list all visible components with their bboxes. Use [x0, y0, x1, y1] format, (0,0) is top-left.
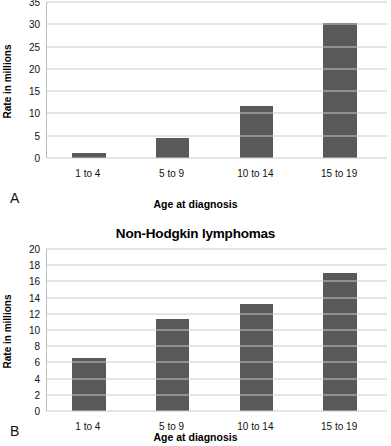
y-tick-label: 15: [29, 86, 40, 97]
category-label: 10 to 14: [237, 168, 273, 179]
gridline: [47, 68, 387, 69]
y-tick-label: 16: [29, 276, 40, 287]
y-tick-label: 18: [29, 260, 40, 271]
gridline: [47, 362, 387, 363]
gridline: [47, 91, 387, 92]
bar: [323, 273, 357, 411]
gridline: [47, 24, 387, 25]
gridline: [47, 158, 387, 159]
bar: [156, 319, 190, 411]
category-label: 1 to 4: [75, 168, 100, 179]
chart-a-x-axis-label: Age at diagnosis: [0, 198, 391, 210]
chart-a-category-labels: 1 to 45 to 910 to 1415 to 19: [0, 168, 391, 184]
gridline: [47, 378, 387, 379]
gridline: [47, 46, 387, 47]
chart-panel-b: Non-Hodgkin lymphomas Rate in millions 0…: [0, 223, 391, 446]
chart-a-y-axis-label: Rate in millions: [1, 0, 15, 166]
gridline: [47, 135, 387, 136]
y-tick-label: 5: [34, 130, 40, 141]
chart-a-plot-area: [46, 2, 381, 158]
y-tick-label: 0: [34, 406, 40, 417]
gridline: [47, 2, 387, 3]
gridline: [47, 330, 387, 331]
y-tick-label: 10: [29, 325, 40, 336]
gridline: [47, 249, 387, 250]
bar: [156, 138, 190, 158]
y-tick-label: 6: [34, 357, 40, 368]
chart-panel-a: Hodgkin lymphomas Rate in millions 05101…: [0, 0, 391, 223]
y-tick-label: 30: [29, 19, 40, 30]
chart-b-plot-area: [46, 249, 381, 411]
chart-b-y-axis-label: Rate in millions: [1, 244, 15, 419]
chart-b-x-axis-label: Age at diagnosis: [0, 431, 391, 443]
gridline: [47, 313, 387, 314]
y-tick-label: 12: [29, 308, 40, 319]
y-tick-label: 20: [29, 63, 40, 74]
category-label: 5 to 9: [159, 168, 184, 179]
y-tick-label: 2: [34, 389, 40, 400]
gridline: [47, 411, 387, 412]
panel-letter-a: A: [10, 190, 19, 206]
bar: [72, 358, 106, 411]
category-label: 15 to 19: [321, 168, 357, 179]
chart-b-y-tick-labels: 02468101214161820: [14, 244, 40, 419]
gridline: [47, 297, 387, 298]
y-tick-label: 35: [29, 0, 40, 8]
chart-a-plot-wrap: Rate in millions 05101520253035 1 to 45 …: [0, 0, 391, 166]
y-tick-label: 0: [34, 153, 40, 164]
y-tick-label: 8: [34, 341, 40, 352]
gridline: [47, 265, 387, 266]
y-tick-label: 25: [29, 41, 40, 52]
chart-b-title: Non-Hodgkin lymphomas: [0, 223, 391, 244]
y-tick-label: 20: [29, 244, 40, 255]
gridline: [47, 346, 387, 347]
gridline: [47, 113, 387, 114]
bar: [240, 106, 274, 158]
chart-b-plot-wrap: Rate in millions 02468101214161820 1 to …: [0, 244, 391, 419]
y-tick-label: 10: [29, 108, 40, 119]
chart-a-y-tick-labels: 05101520253035: [14, 0, 40, 166]
panel-letter-b: B: [10, 423, 19, 439]
gridline: [47, 394, 387, 395]
y-tick-label: 4: [34, 373, 40, 384]
y-tick-label: 14: [29, 292, 40, 303]
gridline: [47, 281, 387, 282]
